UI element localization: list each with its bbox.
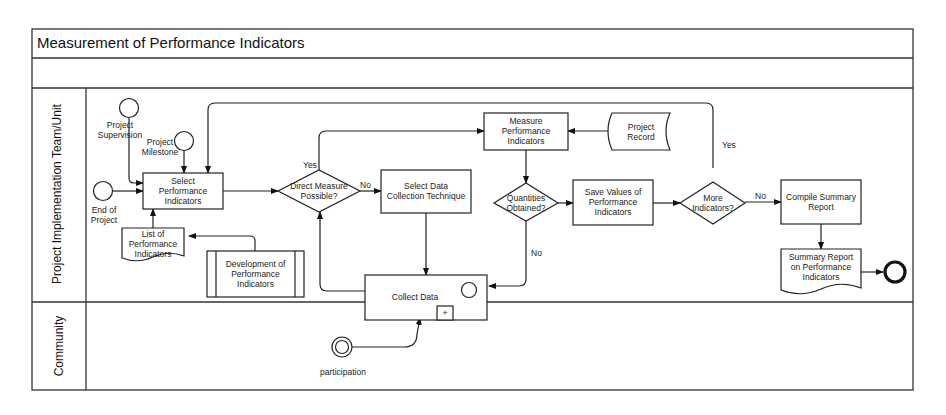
- edge-label-more-no: No: [755, 191, 766, 201]
- pool-title: Measurement of Performance Indicators: [37, 34, 305, 51]
- edge-label-more-yes: Yes: [722, 140, 736, 150]
- label-participation: participation: [318, 367, 368, 377]
- label-end-of-project: End of Project: [88, 205, 120, 225]
- label-summary-report: Summary Report on Performance Indicators: [781, 252, 861, 282]
- label-more-indicators: More Indicators?: [683, 193, 743, 213]
- label-direct-measure: Direct Measure Possible?: [282, 181, 356, 201]
- label-save-values: Save Values of Performance Indicators: [573, 187, 653, 217]
- label-select-data-collection: Select Data Collection Technique: [381, 181, 471, 201]
- start-event-end-of-project[interactable]: [94, 182, 113, 201]
- lane-label-community: Community: [52, 296, 66, 396]
- end-event[interactable]: [885, 262, 905, 282]
- label-quantities-obtained: Quantities Obtained?: [496, 193, 556, 213]
- label-compile-summary: Compile Summary Report: [781, 192, 861, 212]
- label-collect-data-marker: +: [437, 308, 453, 318]
- edge-label-direct-no: No: [360, 180, 371, 190]
- label-development-of-indicators: Development of Performance Indicators: [216, 259, 295, 289]
- edge-label-quantities-no: No: [531, 248, 542, 258]
- label-list-of-indicators: List of Performance Indicators: [122, 229, 184, 259]
- label-project-supervision: Project Supervision: [95, 120, 145, 140]
- label-project-milestone: Project Milestone: [140, 137, 180, 157]
- start-event-project-supervision[interactable]: [120, 99, 139, 118]
- label-collect-data: Collect Data: [365, 292, 465, 302]
- edge-label-direct-yes: Yes: [303, 160, 317, 170]
- lane-label-project-team: Project Implementation Team/Unit: [50, 99, 64, 289]
- label-select-performance-indicators: Select Performance Indicators: [143, 176, 223, 206]
- label-measure-performance-indicators: Measure Performance Indicators: [484, 116, 568, 146]
- start-event-participation[interactable]: [332, 337, 352, 357]
- label-project-record: Project Record: [612, 122, 670, 142]
